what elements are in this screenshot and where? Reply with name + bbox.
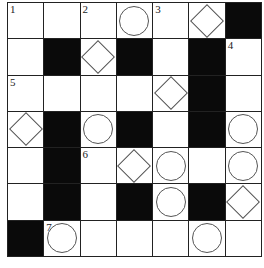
crossword-cell[interactable] (8, 112, 43, 147)
black-square (189, 112, 224, 147)
diamond-icon (9, 113, 43, 147)
diamond-icon (118, 149, 152, 183)
crossword-cell[interactable]: 5 (8, 76, 43, 111)
diamond-icon (226, 185, 260, 219)
crossword-cell[interactable]: 4 (226, 39, 261, 74)
black-square (189, 76, 224, 111)
crossword-cell[interactable] (153, 148, 188, 183)
crossword-cell[interactable]: 6 (81, 148, 116, 183)
crossword-cell[interactable]: 2 (81, 3, 116, 38)
clue-number: 3 (155, 3, 161, 15)
crossword-cell[interactable] (8, 39, 43, 74)
black-square (117, 112, 152, 147)
crossword-cell[interactable]: 3 (153, 3, 188, 38)
black-square (8, 221, 43, 256)
crossword-cell[interactable] (117, 76, 152, 111)
circle-icon (228, 114, 258, 144)
black-square (226, 3, 261, 38)
black-square (117, 184, 152, 219)
circle-icon (156, 187, 186, 217)
diamond-icon (81, 40, 115, 74)
crossword-grid: 1234567 (7, 2, 262, 257)
crossword-cell[interactable] (189, 221, 224, 256)
crossword-cell[interactable]: 7 (44, 221, 79, 256)
diamond-icon (154, 76, 188, 110)
crossword-cell[interactable]: 1 (8, 3, 43, 38)
clue-number: 6 (83, 148, 89, 160)
crossword-cell[interactable] (226, 76, 261, 111)
crossword-cell[interactable] (226, 148, 261, 183)
crossword-cell[interactable] (81, 39, 116, 74)
circle-icon (228, 151, 258, 181)
circle-icon (156, 151, 186, 181)
diamond-icon (190, 4, 224, 38)
circle-icon (119, 6, 149, 36)
crossword-cell[interactable] (226, 184, 261, 219)
crossword-cell[interactable] (44, 76, 79, 111)
black-square (189, 39, 224, 74)
crossword-cell[interactable] (81, 112, 116, 147)
black-square (44, 39, 79, 74)
black-square (189, 184, 224, 219)
crossword-cell[interactable] (44, 3, 79, 38)
black-square (44, 184, 79, 219)
crossword-cell[interactable] (81, 76, 116, 111)
crossword-cell[interactable] (8, 148, 43, 183)
circle-icon (192, 223, 222, 253)
crossword-cell[interactable] (117, 3, 152, 38)
clue-number: 4 (228, 39, 234, 51)
crossword-cell[interactable] (8, 184, 43, 219)
crossword-cell[interactable] (81, 184, 116, 219)
crossword-cell[interactable] (153, 221, 188, 256)
circle-icon (83, 114, 113, 144)
clue-number: 7 (46, 221, 52, 233)
clue-number: 1 (10, 3, 16, 15)
black-square (44, 148, 79, 183)
crossword-cell[interactable] (153, 184, 188, 219)
crossword-cell[interactable] (153, 76, 188, 111)
crossword-cell[interactable] (153, 39, 188, 74)
crossword-cell[interactable] (117, 221, 152, 256)
crossword-cell[interactable] (153, 112, 188, 147)
crossword-cell[interactable] (117, 148, 152, 183)
crossword-cell[interactable] (226, 221, 261, 256)
clue-number: 5 (10, 76, 16, 88)
crossword-cell[interactable] (81, 221, 116, 256)
black-square (117, 39, 152, 74)
clue-number: 2 (83, 3, 89, 15)
crossword-cell[interactable] (226, 112, 261, 147)
black-square (44, 112, 79, 147)
crossword-cell[interactable] (189, 148, 224, 183)
crossword-cell[interactable] (189, 3, 224, 38)
